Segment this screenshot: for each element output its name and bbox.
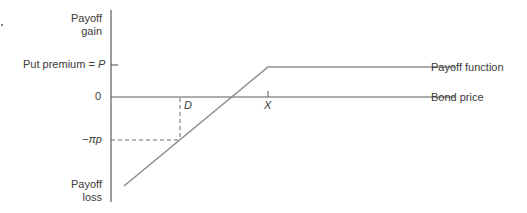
d-marker-label: D [184,99,192,112]
payoff-function-label: Payoff function [431,61,504,74]
bullet-mark [1,24,3,26]
bond-price-label: Bond price [431,91,484,104]
x-marker-label: X [264,99,271,112]
payoff-function-line [124,67,455,186]
put-premium-label: Put premium = P [23,58,105,71]
payoff-loss-line2: loss [40,191,102,204]
payoff-loss-line1: Payoff [40,178,102,191]
put-premium-text: Put premium = [23,58,98,70]
payoff-gain-label: Payoff gain [40,12,102,38]
payoff-loss-label: Payoff loss [40,178,102,204]
zero-label: 0 [95,90,101,103]
put-premium-var: P [98,58,105,70]
payoff-gain-line1: Payoff [40,12,102,25]
payoff-gain-line2: gain [40,25,102,38]
neg-pi-p-label: −πp [82,133,102,146]
